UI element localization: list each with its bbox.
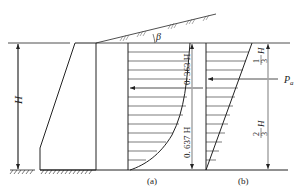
ground-line [10,170,288,174]
svg-text:3: 3 [260,59,269,63]
dim-b-upper-fraction: 1 3 H [252,47,269,65]
panel-b-caption: (b) [238,176,249,186]
height-label: H [12,95,24,105]
earth-pressure-diagram: H β [0,0,301,193]
dim-a-upper-label: 0. 363 H [182,53,192,85]
dim-a-lower-label: 0. 637 H [182,126,192,158]
ground-hatch [10,170,92,174]
height-dimension: H [12,44,24,169]
slope-angle-arc [153,34,155,43]
svg-text:H: H [256,120,266,128]
panel-a-hatch [128,52,189,160]
panel-a-dimensions: 0. 363 H 0. 637 H [182,44,192,169]
svg-text:H: H [256,47,266,55]
force-label: Pa [283,74,294,87]
svg-text:3: 3 [260,132,269,136]
slope-angle-label: β [155,31,161,42]
dim-b-lower-fraction: 2 3 H [252,120,269,138]
panel-b-dimensions: 1 3 H 2 3 H Pa [252,44,294,169]
panel-a-caption: (a) [147,176,157,186]
backfill-slope: β [96,14,216,43]
retaining-wall [40,43,96,170]
